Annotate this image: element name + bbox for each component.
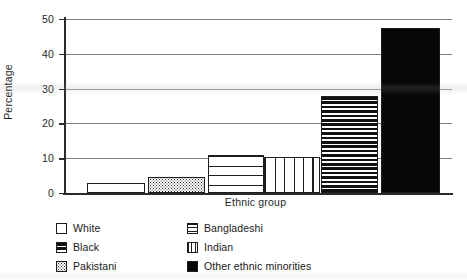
- legend-swatch-white-icon: [56, 223, 67, 234]
- x-axis-title: Ethnic group: [0, 196, 467, 208]
- y-tick-label-30: 30: [28, 84, 54, 95]
- legend-swatch-pakistani-icon: [56, 261, 67, 272]
- bar-pakistani: [148, 177, 205, 193]
- legend-item-other-ethnic-minorities: Other ethnic minorities: [187, 257, 362, 275]
- chart-legend: White Black Pakistani Bangladeshi Indian: [56, 219, 416, 277]
- y-tick-label-50: 50: [28, 14, 54, 25]
- bar-chart-figure: 50 40 30 20 10 0 Percentage Ethnic group: [0, 0, 467, 280]
- bar-black: [321, 96, 378, 193]
- legend-swatch-bangladeshi-icon: [187, 223, 198, 234]
- y-axis-tick-labels: 50 40 30 20 10 0: [22, 0, 54, 280]
- y-tick-label-40: 40: [28, 49, 54, 60]
- legend-swatch-indian-icon: [187, 242, 198, 253]
- legend-item-indian: Indian: [187, 238, 362, 256]
- y-tick-label-10: 10: [28, 153, 54, 164]
- legend-column-right: Bangladeshi Indian Other ethnic minoriti…: [187, 219, 362, 276]
- legend-label-white: White: [73, 223, 100, 234]
- bar-indian: [264, 157, 320, 194]
- legend-item-bangladeshi: Bangladeshi: [187, 219, 362, 237]
- legend-label-black: Black: [73, 242, 99, 253]
- legend-label-other-ethnic-minorities: Other ethnic minorities: [204, 261, 311, 272]
- x-axis-title-text: Ethnic group: [225, 196, 286, 208]
- legend-swatch-other-icon: [187, 261, 198, 272]
- legend-label-bangladeshi: Bangladeshi: [204, 223, 263, 234]
- y-tick-label-20: 20: [28, 118, 54, 129]
- bar-white: [87, 183, 145, 193]
- legend-swatch-black-icon: [56, 242, 67, 253]
- legend-label-indian: Indian: [204, 242, 233, 253]
- x-axis-line: [63, 193, 453, 195]
- bar-bangladeshi: [208, 155, 264, 193]
- bar-other-ethnic-minorities: [381, 28, 440, 193]
- legend-label-pakistani: Pakistani: [73, 261, 117, 272]
- plot-area: [64, 19, 452, 193]
- y-axis-title: Percentage: [2, 64, 14, 120]
